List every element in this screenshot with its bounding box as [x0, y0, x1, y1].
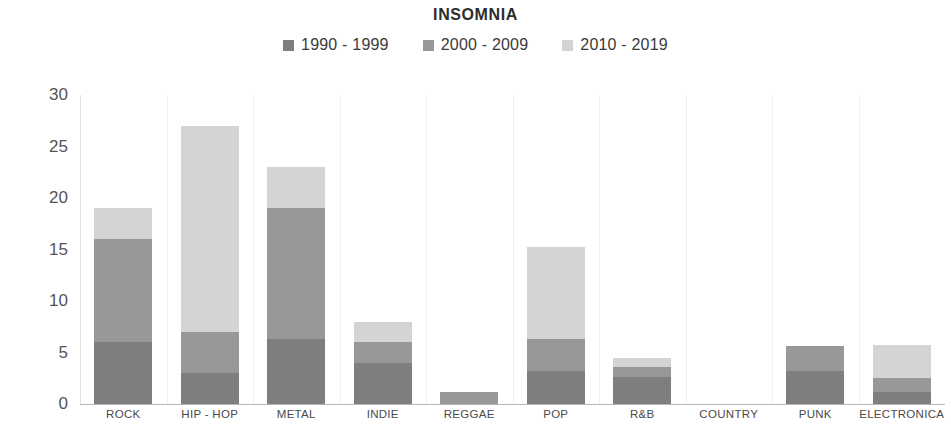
bar-segment: [181, 126, 239, 332]
bar-segment: [873, 392, 931, 404]
bar-punk[interactable]: [786, 346, 844, 404]
gridline: [772, 95, 773, 404]
gridline: [253, 95, 254, 404]
insomnia-stacked-bar-chart: INSOMNIA 1990 - 1999 2000 - 2009 2010 - …: [0, 0, 951, 447]
y-axis-tick-15: 15: [49, 240, 68, 260]
bar-segment: [527, 339, 585, 371]
bar-segment: [94, 342, 152, 404]
bar-hip-hop[interactable]: [181, 126, 239, 404]
bar-rock[interactable]: [94, 208, 152, 404]
plot-wrapper: 051015202530 ROCKHIP - HOPMETALINDIEREGG…: [0, 0, 951, 447]
x-axis-label-country: COUNTRY: [699, 408, 758, 420]
bar-segment: [267, 339, 325, 404]
y-axis-tick-25: 25: [49, 137, 68, 157]
gridline: [513, 95, 514, 404]
y-axis-tick-0: 0: [59, 394, 68, 414]
y-axis: 051015202530: [24, 0, 68, 447]
bar-indie[interactable]: [354, 322, 412, 404]
x-axis-label-rock: ROCK: [106, 408, 140, 420]
bar-segment: [613, 377, 671, 404]
bar-segment: [354, 363, 412, 404]
bar-segment: [440, 392, 498, 404]
y-axis-tick-10: 10: [49, 291, 68, 311]
x-axis-label-indie: INDIE: [367, 408, 399, 420]
bar-segment: [267, 167, 325, 208]
gridline: [167, 95, 168, 404]
gridline: [426, 95, 427, 404]
bar-segment: [613, 358, 671, 367]
bar-segment: [354, 322, 412, 343]
y-axis-tick-30: 30: [49, 85, 68, 105]
x-axis-label-r-b: R&B: [630, 408, 655, 420]
bar-segment: [873, 345, 931, 378]
bar-r-b[interactable]: [613, 358, 671, 404]
y-axis-tick-5: 5: [59, 343, 68, 363]
x-axis-label-hip-hop: HIP - HOP: [181, 408, 238, 420]
bar-segment: [94, 239, 152, 342]
bar-metal[interactable]: [267, 167, 325, 404]
bar-segment: [786, 371, 844, 404]
gridline: [859, 95, 860, 404]
bar-segment: [181, 373, 239, 404]
x-axis-label-punk: PUNK: [799, 408, 832, 420]
x-axis-label-reggae: REGGAE: [444, 408, 495, 420]
gridline: [340, 95, 341, 404]
bar-segment: [613, 367, 671, 377]
bar-pop[interactable]: [527, 247, 585, 404]
bar-segment: [527, 247, 585, 339]
x-axis-label-electronica: ELECTRONICA: [859, 408, 944, 420]
bar-segment: [181, 332, 239, 373]
bar-electronica[interactable]: [873, 345, 931, 404]
gridline: [686, 95, 687, 404]
bar-segment: [873, 378, 931, 391]
gridline: [599, 95, 600, 404]
y-axis-tick-20: 20: [49, 188, 68, 208]
bar-segment: [267, 208, 325, 339]
bar-reggae[interactable]: [440, 392, 498, 404]
x-axis-line: [80, 404, 945, 405]
x-axis-label-pop: POP: [543, 408, 568, 420]
plot-area: [80, 95, 945, 404]
bar-segment: [354, 342, 412, 363]
x-axis-label-metal: METAL: [277, 408, 316, 420]
bar-segment: [527, 371, 585, 404]
bar-segment: [786, 346, 844, 371]
bar-segment: [94, 208, 152, 239]
x-axis: ROCKHIP - HOPMETALINDIEREGGAEPOPR&BCOUNT…: [80, 408, 945, 436]
